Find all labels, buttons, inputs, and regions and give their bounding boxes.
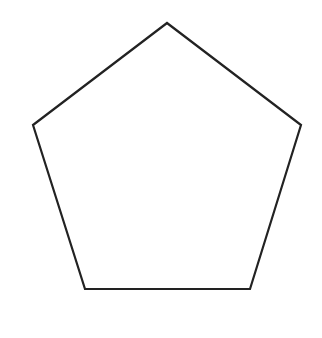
pentagon-shape	[33, 23, 301, 289]
pentagon-diagram	[0, 0, 322, 338]
